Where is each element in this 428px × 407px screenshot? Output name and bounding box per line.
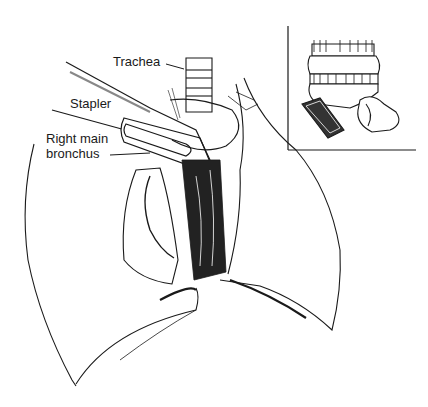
label-right-main-bronchus-line2: bronchus — [46, 146, 126, 161]
label-trachea: Trachea — [113, 54, 160, 69]
inset-bronchus-stump — [302, 40, 399, 138]
trachea — [168, 58, 212, 120]
label-right-main-bronchus: Right main bronchus — [46, 131, 126, 161]
label-stapler: Stapler — [70, 96, 111, 111]
label-right-main-bronchus-line1: Right main — [46, 131, 126, 146]
surgical-illustration — [0, 0, 428, 407]
